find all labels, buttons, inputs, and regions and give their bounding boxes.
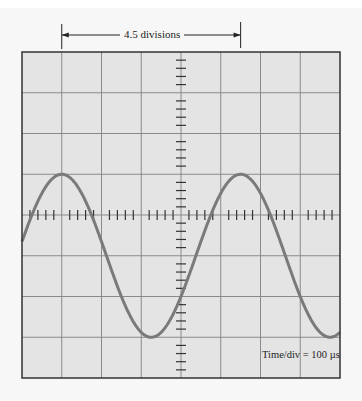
oscilloscope-display (0, 0, 362, 401)
time-per-div-label: Time/div = 100 µs (262, 349, 340, 360)
measurement-label: 4.5 divisions (120, 28, 184, 40)
arrow-right-icon (234, 33, 241, 38)
arrow-left-icon (62, 33, 69, 38)
